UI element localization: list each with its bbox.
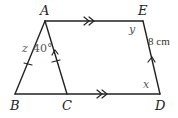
angle-label-x: x xyxy=(143,78,150,91)
angle-label-z: z xyxy=(21,42,28,55)
angle-label-40: 40° xyxy=(33,42,53,55)
angle-label-y: y xyxy=(128,23,136,36)
vertex-label-A: A xyxy=(39,3,49,18)
geometry-diagram: A E B C D z 40° y x 8 cm xyxy=(0,0,178,118)
segment-AB xyxy=(15,21,45,94)
measurement-ED: 8 cm xyxy=(148,35,170,47)
segment-AC xyxy=(45,21,67,94)
vertex-label-C: C xyxy=(62,98,72,113)
vertex-label-E: E xyxy=(137,3,148,18)
vertex-label-D: D xyxy=(154,98,166,113)
vertex-label-B: B xyxy=(9,98,20,113)
